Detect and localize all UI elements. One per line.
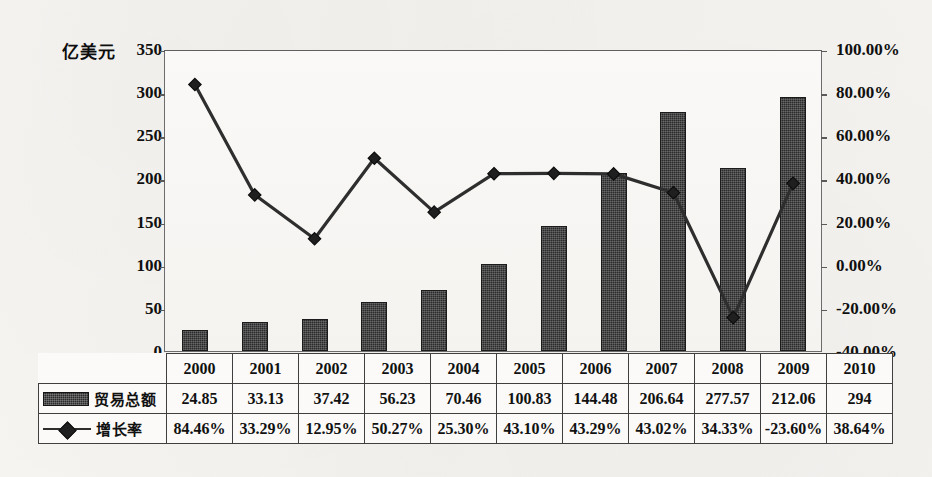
table-cell: 33.13 <box>233 384 299 414</box>
left-axis-tick-label: 50 <box>114 299 162 319</box>
table-year-header: 2006 <box>563 354 629 384</box>
table-year-header: 2007 <box>629 354 695 384</box>
diamond-marker-icon <box>667 186 679 198</box>
left-axis-tick-label: 150 <box>114 213 162 233</box>
table-cell: 70.46 <box>431 384 497 414</box>
diamond-marker-icon <box>189 78 201 90</box>
left-axis-tick-label: 200 <box>114 169 162 189</box>
table-cell: 100.83 <box>497 384 563 414</box>
left-axis-tick-label: 250 <box>114 126 162 146</box>
legend-row-trade-total: 贸易总额 <box>39 384 167 414</box>
right-axis-tick-label: 60.00% <box>836 126 891 146</box>
line-series-growth-rate <box>165 51 823 353</box>
bar-swatch-icon <box>43 392 89 406</box>
data-table: 2000200120022003200420052006200720082009… <box>38 353 893 444</box>
table-year-header: 2009 <box>761 354 827 384</box>
table-cell: 24.85 <box>167 384 233 414</box>
right-axis-tick-label: 20.00% <box>836 213 891 233</box>
table-header-row: 2000200120022003200420052006200720082009… <box>39 354 893 384</box>
right-axis-tick-label: 0.00% <box>836 256 883 276</box>
table-year-header: 2001 <box>233 354 299 384</box>
diamond-marker-icon <box>787 177 799 189</box>
table-year-header: 2008 <box>695 354 761 384</box>
table-year-header: 2004 <box>431 354 497 384</box>
table-cell: 43.02% <box>629 414 695 444</box>
table-cell: 277.57 <box>695 384 761 414</box>
left-axis-unit-label: 亿美元 <box>62 38 116 63</box>
table-cell: 33.29% <box>233 414 299 444</box>
table-corner-cell <box>39 354 167 384</box>
plot-area <box>164 50 822 352</box>
table-cell: 43.10% <box>497 414 563 444</box>
legend-label: 贸易总额 <box>94 388 156 409</box>
left-axis-tick-label: 350 <box>114 40 162 60</box>
legend-row-growth-rate: 增长率 <box>39 414 167 444</box>
table-year-header: 2010 <box>827 354 893 384</box>
right-axis-tick-label: 40.00% <box>836 169 891 189</box>
table-row: 增长率84.46%33.29%12.95%50.27%25.30%43.10%4… <box>39 414 893 444</box>
table-cell: 25.30% <box>431 414 497 444</box>
table-cell: 294 <box>827 384 893 414</box>
table-cell: 37.42 <box>299 384 365 414</box>
table-row: 贸易总额24.8533.1337.4256.2370.46100.83144.4… <box>39 384 893 414</box>
right-axis-tick-label: -20.00% <box>836 299 897 319</box>
table-cell: 56.23 <box>365 384 431 414</box>
table-cell: 212.06 <box>761 384 827 414</box>
table-year-header: 2002 <box>299 354 365 384</box>
right-axis-tick-label: 80.00% <box>836 83 891 103</box>
legend-label: 增长率 <box>96 418 143 439</box>
diamond-marker-icon <box>607 168 619 180</box>
line-diamond-swatch-icon <box>43 423 91 435</box>
table-cell: 84.46% <box>167 414 233 444</box>
table-cell: 34.33% <box>695 414 761 444</box>
left-axis-tick-label: 100 <box>114 256 162 276</box>
table-year-header: 2000 <box>167 354 233 384</box>
table-cell: 43.29% <box>563 414 629 444</box>
diamond-marker-icon <box>548 167 560 179</box>
chart-figure: 亿美元 050100150200250300350 -40.00%-20.00%… <box>0 0 932 477</box>
table-cell: 206.64 <box>629 384 695 414</box>
table-cell: 38.64% <box>827 414 893 444</box>
table-year-header: 2003 <box>365 354 431 384</box>
right-axis-tick-label: 100.00% <box>836 40 900 60</box>
table-cell: 50.27% <box>365 414 431 444</box>
table-year-header: 2005 <box>497 354 563 384</box>
growth-rate-line <box>195 85 793 318</box>
left-axis-tick-label: 300 <box>114 83 162 103</box>
table-cell: -23.60% <box>761 414 827 444</box>
table-cell: 12.95% <box>299 414 365 444</box>
table-cell: 144.48 <box>563 384 629 414</box>
diamond-marker-icon <box>727 311 739 323</box>
